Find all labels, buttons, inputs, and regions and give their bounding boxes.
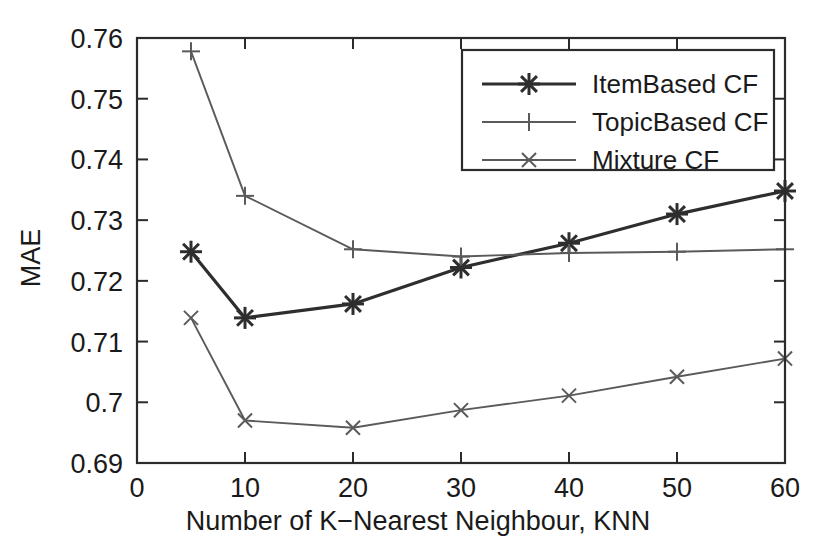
legend-label: ItemBased CF (592, 69, 758, 99)
y-tick-label: 0.73 (70, 206, 123, 236)
series-line (191, 318, 785, 428)
y-tick-label: 0.7 (85, 388, 123, 418)
legend-label: Mixture CF (592, 145, 719, 175)
data-point-marker (668, 243, 686, 261)
series-line (191, 191, 785, 318)
data-point-marker (342, 293, 364, 315)
legend-marker-asterisk (518, 73, 540, 95)
x-tick-label: 0 (129, 473, 144, 503)
chart-figure: 0.690.70.710.720.730.740.750.76 01020304… (0, 0, 838, 557)
x-tick-label: 60 (770, 473, 800, 503)
y-axis-title: MAE (16, 229, 46, 288)
data-point-marker (184, 311, 198, 325)
data-point-marker (236, 187, 254, 205)
data-point-marker (234, 307, 256, 329)
data-point-marker (666, 203, 688, 225)
data-point-marker (180, 241, 202, 263)
line-chart: 0.690.70.710.720.730.740.750.76 01020304… (0, 0, 838, 557)
x-tick-label: 20 (338, 473, 368, 503)
data-point-marker (344, 240, 362, 258)
y-tick-labels: 0.690.70.710.720.730.740.750.76 (70, 24, 123, 479)
x-tick-label: 30 (446, 473, 476, 503)
data-point-marker (182, 42, 200, 60)
x-tick-label: 10 (230, 473, 260, 503)
legend-label: TopicBased CF (592, 107, 768, 137)
x-tick-label: 40 (554, 473, 584, 503)
y-tick-label: 0.71 (70, 328, 123, 358)
y-tick-label: 0.76 (70, 24, 123, 54)
x-tick-labels: 0102030405060 (129, 473, 800, 503)
y-tick-label: 0.74 (70, 145, 123, 175)
x-tick-label: 50 (662, 473, 692, 503)
y-tick-label: 0.75 (70, 85, 123, 115)
legend: ItemBased CFTopicBased CFMixture CF (462, 50, 774, 175)
data-point-marker (560, 244, 578, 262)
y-tick-label: 0.69 (70, 449, 123, 479)
y-tick-label: 0.72 (70, 267, 123, 297)
x-axis-title: Number of K−Nearest Neighbour, KNN (186, 506, 650, 536)
